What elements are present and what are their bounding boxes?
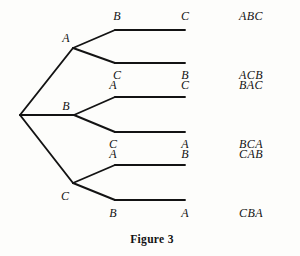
edge-label-c-a: A [109, 148, 117, 160]
figure-3-tree-diagram: A B C B C A C A B C B C A B A ABC ACB BA… [0, 0, 300, 256]
outcome-label-cba: CBA [239, 207, 263, 219]
terminal-label-5: B [181, 148, 189, 160]
branch-c-to-a-4-diag [73, 165, 115, 183]
branch-c-to-b-5-diag [73, 183, 115, 200]
terminal-label-3: C [181, 79, 189, 91]
node-label-a: A [62, 32, 70, 44]
branch-b-to-c-3-diag [74, 115, 115, 132]
node-label-c: C [61, 190, 69, 202]
branch-root-to-c [20, 115, 73, 183]
outcome-label-bac: BAC [239, 79, 263, 91]
edge-label-a-b: B [113, 10, 121, 22]
terminal-label-1: C [181, 10, 189, 22]
edge-label-c-b: B [109, 207, 117, 219]
outcome-label-cab: CAB [239, 148, 263, 160]
branch-a-to-b-0-diag [73, 30, 115, 48]
figure-caption: Figure 3 [130, 233, 173, 245]
node-label-b: B [62, 100, 70, 112]
branch-b-to-a-2-diag [74, 97, 115, 115]
branch-a-to-c-1-diag [73, 48, 115, 63]
terminal-label-6: A [181, 207, 189, 219]
edge-label-b-a: A [109, 79, 117, 91]
outcome-label-abc: ABC [239, 10, 263, 22]
